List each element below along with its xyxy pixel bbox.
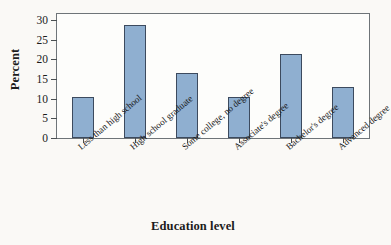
- bar: [124, 25, 146, 138]
- y-tick-mark: [51, 138, 57, 139]
- y-tick-mark: [51, 79, 57, 80]
- y-tick-label: 0: [42, 132, 48, 144]
- x-axis-title: Education level: [0, 219, 386, 234]
- bar: [280, 54, 302, 138]
- y-axis-title: Percent: [8, 34, 23, 106]
- y-tick-label: 15: [37, 73, 49, 85]
- y-tick-label: 25: [37, 34, 49, 46]
- y-tick-mark: [51, 40, 57, 41]
- y-tick-label: 30: [37, 14, 49, 26]
- y-tick-label: 10: [37, 93, 49, 105]
- y-tick-mark: [51, 59, 57, 60]
- y-tick-mark: [51, 118, 57, 119]
- y-tick-mark: [51, 99, 57, 100]
- y-tick-label: 5: [42, 112, 48, 124]
- y-tick-mark: [51, 20, 57, 21]
- y-tick-label: 20: [37, 53, 49, 65]
